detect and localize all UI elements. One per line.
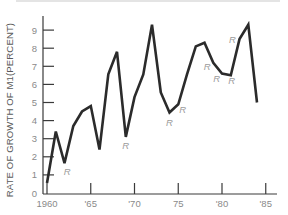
y-tick-label: 4 xyxy=(32,115,37,126)
y-tick-label: 1 xyxy=(32,169,37,180)
y-tick-label: 6 xyxy=(32,79,37,90)
x-tick-label: '85 xyxy=(260,198,272,209)
recession-marker: R xyxy=(204,61,211,72)
y-tick-label: 7 xyxy=(32,61,37,72)
recession-marker: R xyxy=(122,140,129,151)
x-tick-label: '65 xyxy=(85,198,97,209)
recession-marker: R xyxy=(64,166,71,177)
data-line xyxy=(47,25,257,183)
recession-marker: R xyxy=(179,104,186,115)
axes xyxy=(43,16,277,194)
x-tick-label: 1960 xyxy=(36,198,57,209)
plot-area: 0123456789 1960'65'7075'80'85 RRRRRRRR xyxy=(0,0,288,215)
x-tick-label: '80 xyxy=(216,198,228,209)
y-tick-label: 5 xyxy=(32,97,37,108)
recession-marker: R xyxy=(228,75,235,86)
y-tick-label: 0 xyxy=(32,188,37,199)
y-tick-label: 8 xyxy=(32,43,37,54)
y-tick-label: 2 xyxy=(32,151,37,162)
x-ticks: 1960'65'7075'80'85 xyxy=(36,183,272,209)
y-tick-label: 9 xyxy=(32,25,37,36)
x-tick-label: 75 xyxy=(173,198,184,209)
recession-marker: R xyxy=(166,117,173,128)
m1-growth-chart: RATE OF GROWTH OF M1(PERCENT) 0123456789… xyxy=(0,0,288,215)
recession-marker: R xyxy=(229,34,236,45)
top-rule xyxy=(16,0,280,2)
recession-marker: R xyxy=(213,73,220,84)
x-tick-label: '70 xyxy=(128,198,140,209)
y-tick-label: 3 xyxy=(32,133,37,144)
y-axis-label: RATE OF GROWTH OF M1(PERCENT) xyxy=(4,23,15,197)
